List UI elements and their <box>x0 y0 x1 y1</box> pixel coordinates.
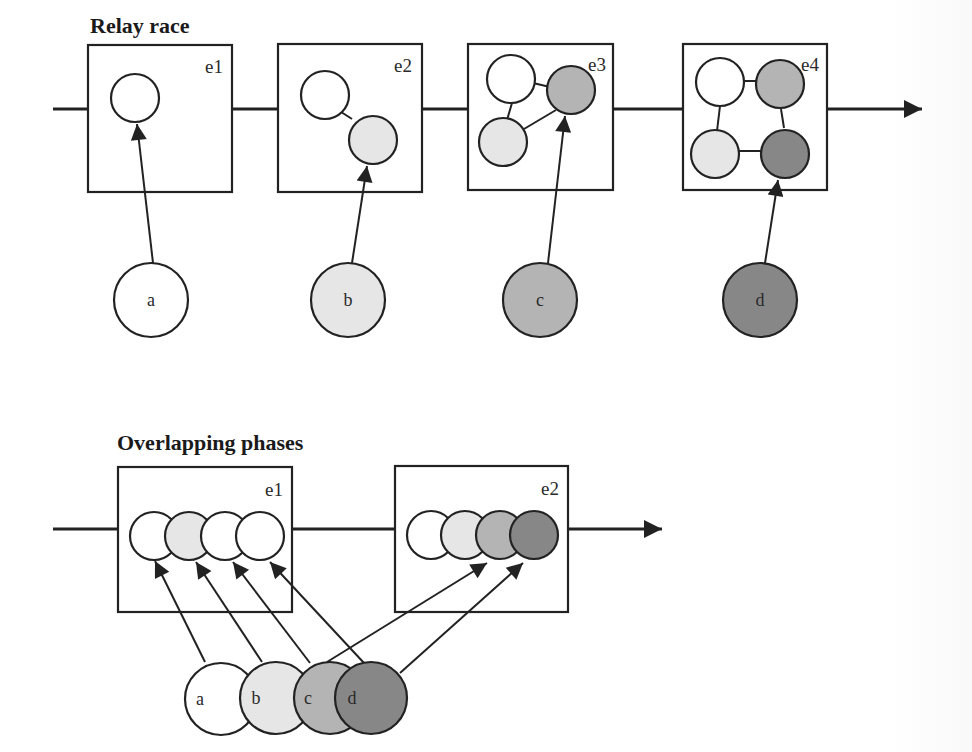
state-node <box>510 511 558 559</box>
agent-label: b <box>252 688 261 708</box>
state-node <box>111 74 159 122</box>
relay-event-e3: e3 <box>468 44 613 190</box>
state-node <box>479 118 527 166</box>
state-node <box>547 66 595 114</box>
relay-agent-c: c <box>503 263 577 337</box>
agent-label: d <box>756 290 765 310</box>
overlap-event-e2: e2 <box>395 466 568 612</box>
relay-agent-d: d <box>723 263 797 337</box>
state-node <box>761 130 809 178</box>
relay-event-e1: e1 <box>88 45 232 192</box>
event-label: e2 <box>394 55 412 76</box>
relay-race-section: Relay race e1 e2 e3 <box>53 13 922 337</box>
relay-arrows <box>137 116 778 263</box>
overlapping-phases-title: Overlapping phases <box>117 430 304 455</box>
agent-label: c <box>304 688 312 708</box>
state-node <box>756 60 804 108</box>
overlap-agent-d: d <box>335 662 407 734</box>
event-label: e1 <box>265 479 283 500</box>
state-node <box>349 116 397 164</box>
diagram-canvas: Relay race e1 e2 e3 <box>0 0 972 752</box>
state-node <box>696 58 744 106</box>
relay-agent-a: a <box>114 263 188 337</box>
agent-label: c <box>536 290 544 310</box>
agent-label: a <box>196 689 204 709</box>
event-label: e4 <box>801 54 819 75</box>
agent-label: a <box>147 290 155 310</box>
event-label: e1 <box>205 56 223 77</box>
agent-label: d <box>348 688 357 708</box>
state-node <box>487 55 535 103</box>
relay-race-title: Relay race <box>90 13 190 38</box>
state-node <box>691 130 739 178</box>
relay-event-e2: e2 <box>278 44 422 192</box>
relay-event-e4: e4 <box>683 44 827 190</box>
relay-agent-b: b <box>311 263 385 337</box>
agent-label: b <box>344 290 353 310</box>
state-node <box>236 512 284 560</box>
event-label: e2 <box>541 478 559 499</box>
overlap-event-e1: e1 <box>118 467 292 612</box>
overlapping-phases-section: Overlapping phases e1 e2 <box>53 430 662 735</box>
event-label: e3 <box>588 54 606 75</box>
arrow-icon <box>765 180 778 263</box>
state-node <box>301 71 349 119</box>
